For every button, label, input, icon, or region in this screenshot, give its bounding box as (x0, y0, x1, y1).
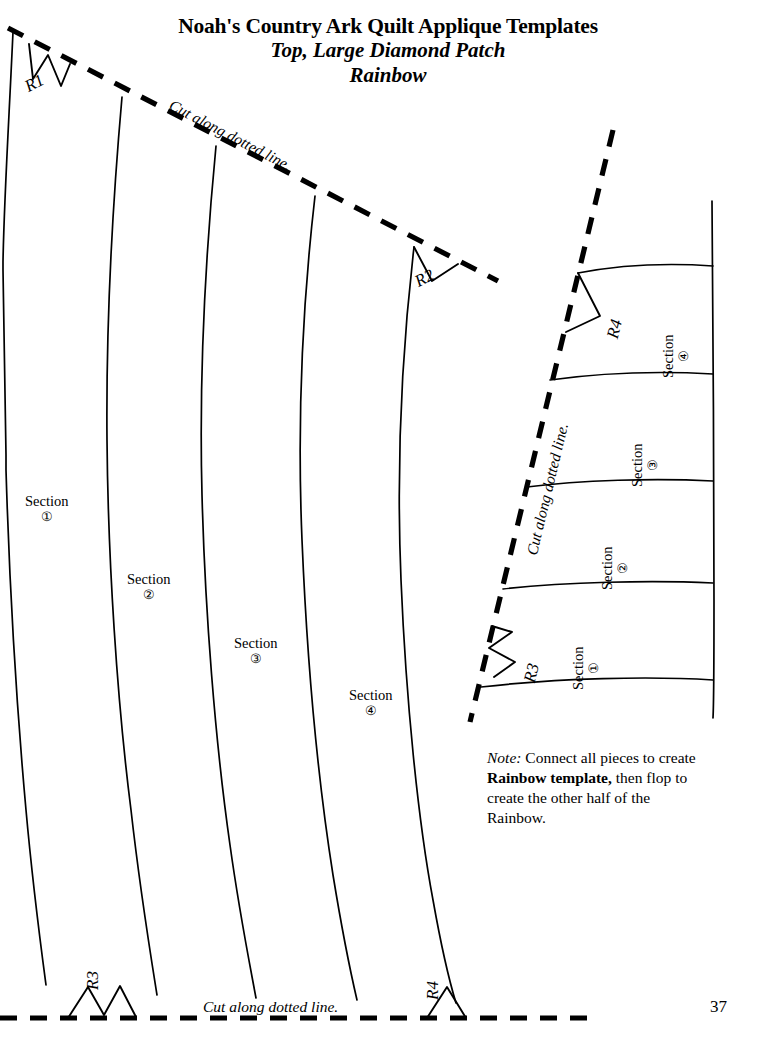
cut-line-top-diagonal (8, 28, 498, 281)
left-panel-arc-lines (3, 32, 456, 1003)
arc-line-1 (107, 97, 157, 995)
note-bold-text: Rainbow template, (487, 769, 612, 786)
registration-mark-r4-bottom (427, 987, 466, 1018)
registration-mark-r1 (29, 44, 70, 86)
right-divider-3 (503, 582, 713, 589)
registration-mark-r4-right (566, 273, 600, 332)
page-number: 37 (710, 997, 727, 1017)
registration-mark-r3-bottom (68, 986, 136, 1018)
note-block: Note: Connect all pieces to create Rainb… (487, 748, 702, 829)
right-divider-top (578, 265, 713, 273)
registration-mark-r2 (414, 247, 458, 281)
arc-line-0 (3, 32, 46, 985)
note-heading: Note: (487, 749, 521, 766)
arc-line-4 (399, 247, 456, 1003)
arc-line-2 (201, 146, 256, 998)
arc-line-3 (300, 196, 357, 1000)
right-divider-1 (550, 373, 713, 380)
right-panel-section-dividers (481, 265, 713, 687)
quilt-template-diagram (0, 0, 776, 1053)
right-divider-bottom (481, 678, 713, 687)
cut-line-right-diagonal (470, 130, 613, 722)
right-divider-2 (527, 480, 713, 487)
right-panel-outer-edge (712, 201, 714, 718)
note-text-1: Connect all pieces to create (521, 749, 695, 766)
document-page: Noah's Country Ark Quilt Applique Templa… (0, 0, 776, 1053)
